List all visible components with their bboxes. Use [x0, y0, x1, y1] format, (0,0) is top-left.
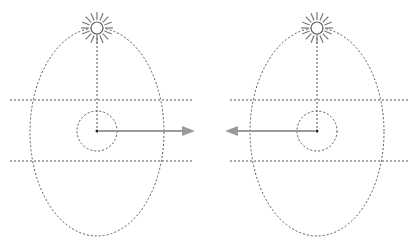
center-dot	[96, 130, 99, 133]
right-panel	[225, 12, 410, 236]
arrow-left-icon	[225, 126, 315, 136]
left-panel	[10, 12, 195, 236]
arrow-right-icon	[99, 126, 195, 136]
center-dot	[316, 130, 319, 133]
orbit-diagram	[0, 0, 420, 246]
sun-icon	[301, 12, 333, 44]
sun-icon	[81, 12, 113, 44]
